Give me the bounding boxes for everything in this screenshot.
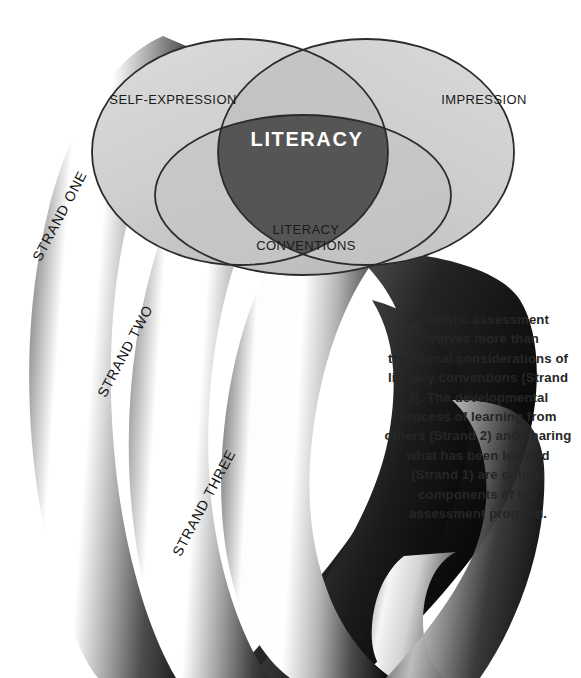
diagram-canvas: SELF-EXPRESSION IMPRESSION LITERACY CONV… (0, 0, 581, 678)
diagram-caption: Authentic assessment involves more than … (383, 310, 573, 523)
